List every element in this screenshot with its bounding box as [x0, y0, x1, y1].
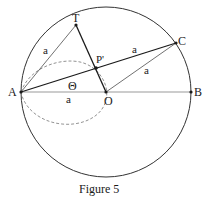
label-a-PC: a [132, 43, 137, 55]
label-P-prime: P' [96, 53, 104, 65]
label-O: O [104, 94, 113, 108]
label-T: T [72, 11, 80, 25]
figure-5: A B O T C P' a a a a Θ Figure 5 [0, 0, 210, 200]
geometry-diagram: A B O T C P' a a a a Θ Figure 5 [0, 0, 210, 200]
label-C: C [178, 34, 186, 48]
label-a-AT: a [43, 44, 48, 56]
point-B [189, 90, 192, 93]
figure-caption: Figure 5 [79, 182, 119, 196]
label-a-AO: a [66, 93, 71, 105]
angle-theta-label: Θ [68, 79, 77, 93]
label-B: B [194, 85, 202, 99]
segment-OC [106, 43, 176, 92]
dashed-circle [21, 61, 107, 124]
label-A: A [8, 85, 17, 99]
point-P [94, 66, 98, 70]
point-A [19, 90, 22, 93]
label-a-OC: a [144, 64, 149, 76]
